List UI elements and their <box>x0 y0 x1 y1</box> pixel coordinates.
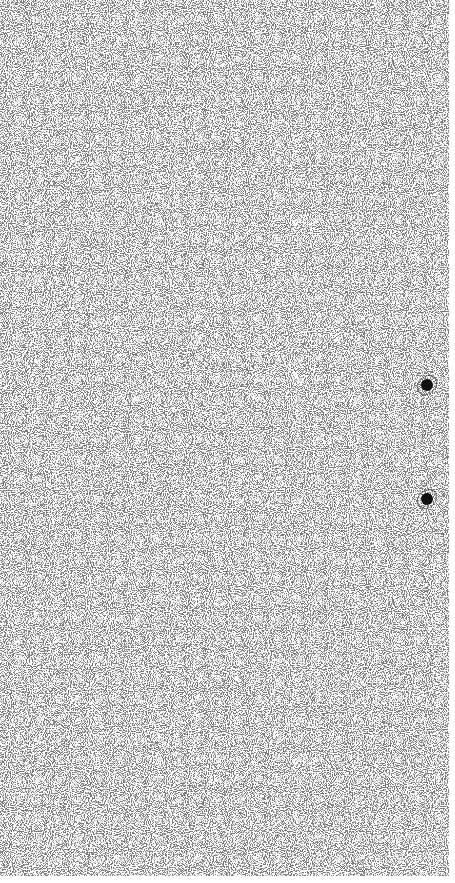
filled-circle-icon <box>421 379 433 391</box>
noise-panel <box>0 0 449 876</box>
noise-texture <box>0 0 449 876</box>
canvas <box>0 0 455 883</box>
marker-dot[interactable] <box>418 376 436 394</box>
marker-dot[interactable] <box>418 490 436 508</box>
filled-circle-icon <box>421 493 433 505</box>
